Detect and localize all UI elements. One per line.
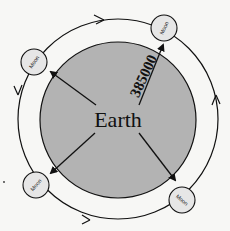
stray-dot (3, 181, 5, 183)
moon-bottom-left: Moon (23, 172, 49, 198)
earth-label: Earth (94, 107, 142, 132)
orbit-arrow-top (94, 15, 104, 24)
moon-bottom-right: Moon (169, 187, 195, 213)
earth-moon-diagram: Earth 385000 Moon Moon Moon Moon (0, 0, 230, 231)
moon-top-left: Moon (21, 49, 47, 75)
moon-top-right: Moon (151, 15, 177, 41)
orbit-arrow-bottom (82, 215, 90, 224)
